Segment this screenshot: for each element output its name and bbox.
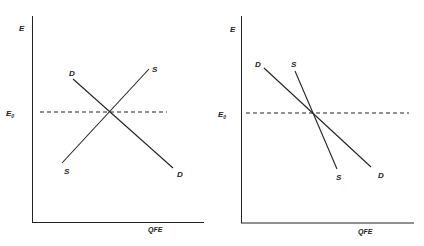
right-e0-label: E0 (218, 110, 226, 120)
left-chart: E E0 D S S D QFE (6, 16, 204, 234)
left-s-start-label: S (64, 167, 70, 176)
right-demand-line (264, 68, 371, 167)
left-d-end-label: D (177, 170, 183, 179)
left-x-axis-label: QFE (148, 226, 163, 234)
right-y-axis-label: E (230, 25, 236, 34)
right-s-end-label: S (336, 173, 342, 182)
left-y-axis-label: E (19, 24, 25, 33)
diagrams: E E0 D S S D QFE E E0 D S S D QFE (0, 0, 424, 246)
left-s-end-label: S (152, 65, 158, 74)
left-demand-line (73, 79, 173, 168)
right-d-end-label: D (378, 171, 384, 180)
left-supply-line (62, 69, 149, 163)
right-d-start-label: D (255, 60, 261, 69)
left-e0-label: E0 (6, 109, 14, 119)
right-s-start-label: S (291, 60, 297, 69)
right-supply-line (295, 71, 337, 169)
right-x-axis-label: QFE (358, 228, 373, 236)
right-chart: E E0 D S S D QFE (218, 16, 414, 236)
left-d-start-label: D (69, 69, 75, 78)
